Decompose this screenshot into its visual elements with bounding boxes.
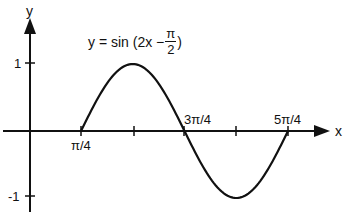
- fraction-numerator: π: [165, 27, 176, 42]
- x-axis-arrow-icon: [314, 125, 330, 137]
- chart: y x 1 -1 π/4 3π/4 5π/4 y = sin (2x − π 2…: [0, 0, 345, 216]
- y-axis-label: y: [26, 4, 33, 18]
- chart-title: y = sin (2x − π 2 ): [88, 27, 182, 56]
- x-tick-label-pi4: π/4: [71, 139, 91, 152]
- title-suffix: ): [177, 34, 182, 50]
- x-tick-label-3pi4: 3π/4: [184, 113, 211, 126]
- y-axis-arrow-icon: [24, 18, 36, 34]
- y-tick-label-1: 1: [14, 57, 21, 70]
- x-tick-label-5pi4: 5π/4: [274, 113, 301, 126]
- y-tick-label-minus1: -1: [8, 190, 20, 203]
- fraction-denominator: 2: [167, 42, 174, 56]
- title-prefix: y = sin (2x −: [88, 34, 164, 50]
- x-axis-label: x: [335, 124, 342, 138]
- title-fraction: π 2: [165, 27, 176, 56]
